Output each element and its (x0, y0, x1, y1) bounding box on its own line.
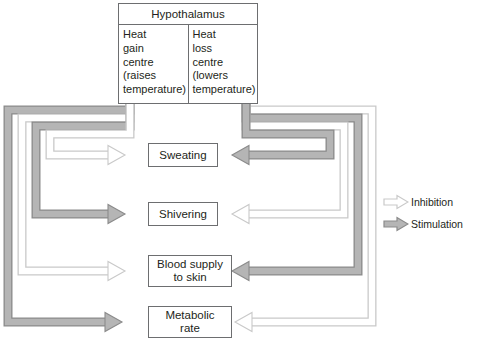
node-metabolic-rate: Metabolic rate (148, 306, 232, 338)
inhibition-arrow-icon (383, 194, 409, 210)
diagram-canvas: Hypothalamus Heat gain centre (raises te… (0, 0, 477, 349)
node-blood-supply: Blood supply to skin (148, 255, 232, 287)
legend-item-inhibition: Inhibition (383, 191, 477, 213)
node-blood-supply-label-line-1: Blood supply (157, 258, 223, 271)
stimulation-arrow-icon (383, 216, 409, 232)
heat-loss-line-2: loss (193, 42, 258, 56)
legend: Inhibition Stimulation (383, 191, 477, 235)
heat-gain-line-3: centre (123, 56, 188, 70)
heat-gain-centre-column: Heat gain centre (raises temperature) (119, 25, 189, 103)
node-metabolic-rate-label-line-2: rate (180, 322, 200, 335)
heat-loss-centre-column: Heat loss centre (lowers temperature) (189, 25, 258, 103)
heat-loss-line-3: centre (193, 56, 258, 70)
node-sweating: Sweating (148, 143, 218, 167)
hypothalamus-columns: Heat gain centre (raises temperature) He… (119, 25, 257, 103)
node-blood-supply-label-line-2: to skin (173, 271, 206, 284)
node-metabolic-rate-label-line-1: Metabolic (165, 309, 214, 322)
node-sweating-label: Sweating (159, 149, 206, 162)
clipped-edge-caption (473, 288, 477, 346)
heat-loss-line-1: Heat (193, 28, 258, 42)
heat-gain-line-1: Heat (123, 28, 188, 42)
heat-gain-line-2: gain (123, 42, 188, 56)
node-shivering: Shivering (148, 202, 218, 226)
heat-loss-line-5: temperature) (193, 83, 258, 97)
node-shivering-label: Shivering (159, 208, 207, 221)
legend-label-inhibition: Inhibition (411, 196, 453, 208)
heat-gain-line-4: (raises (123, 69, 188, 83)
hypothalamus-box: Hypothalamus Heat gain centre (raises te… (118, 3, 258, 104)
heat-loss-line-4: (lowers (193, 69, 258, 83)
hypothalamus-title: Hypothalamus (119, 4, 257, 25)
legend-label-stimulation: Stimulation (411, 218, 463, 230)
heat-gain-line-5: temperature) (123, 83, 188, 97)
legend-item-stimulation: Stimulation (383, 213, 477, 235)
path-left-shivering (36, 104, 130, 224)
